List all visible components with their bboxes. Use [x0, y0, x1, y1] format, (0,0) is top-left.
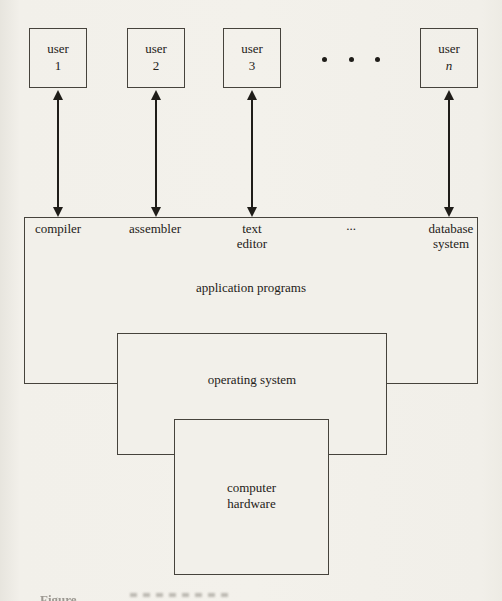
user-2-box: user 2	[127, 28, 185, 88]
program-assembler: assembler	[129, 221, 181, 236]
program-label: text	[237, 221, 267, 236]
scanned-textbook-figure: user 1 user 2 user 3 user n	[0, 0, 502, 601]
program-database-system: database system	[429, 221, 474, 252]
caption-smudge	[130, 593, 230, 597]
arrow-shaft	[251, 100, 253, 207]
user-1-number: 1	[55, 58, 62, 75]
program-label: system	[429, 236, 474, 251]
program-label: assembler	[129, 221, 181, 236]
user-n-number: n	[446, 58, 453, 75]
arrow-up-icon	[444, 90, 454, 100]
user-n-label: user	[438, 41, 460, 58]
dot-icon	[322, 57, 327, 62]
computer-hardware-label: computer hardware	[175, 480, 328, 511]
operating-system-label: operating system	[118, 372, 386, 388]
user-3-label: user	[241, 41, 263, 58]
user-1-label: user	[47, 41, 69, 58]
ellipsis-dots-icon	[322, 57, 380, 62]
user-n-connection-arrow	[443, 90, 455, 217]
dot-icon	[375, 57, 380, 62]
user-3-number: 3	[249, 58, 256, 75]
program-ellipsis: ...	[346, 218, 356, 233]
user-n-box: user n	[420, 28, 478, 88]
user-2-connection-arrow	[150, 90, 162, 217]
arrow-up-icon	[247, 90, 257, 100]
user-3-connection-arrow	[246, 90, 258, 217]
user-3-box: user 3	[223, 28, 281, 88]
computer-hardware-box: computer hardware	[174, 419, 329, 575]
arrow-shaft	[57, 100, 59, 207]
user-2-number: 2	[153, 58, 160, 75]
layer-title: operating system	[118, 372, 386, 388]
user-2-label: user	[145, 41, 167, 58]
arrow-down-icon	[53, 207, 63, 217]
program-compiler: compiler	[35, 221, 81, 236]
arrow-down-icon	[247, 207, 257, 217]
ellipsis-label: ...	[346, 218, 356, 233]
program-label: compiler	[35, 221, 81, 236]
arrow-up-icon	[53, 90, 63, 100]
arrow-up-icon	[151, 90, 161, 100]
application-programs-label: application programs	[25, 280, 477, 296]
arrow-down-icon	[151, 207, 161, 217]
program-text-editor: text editor	[237, 221, 267, 252]
layer-title: computer	[175, 480, 328, 496]
arrow-down-icon	[444, 207, 454, 217]
user-1-connection-arrow	[52, 90, 64, 217]
dot-icon	[349, 57, 354, 62]
arrow-shaft	[448, 100, 450, 207]
program-label: database	[429, 221, 474, 236]
layer-title: hardware	[175, 496, 328, 512]
user-1-box: user 1	[29, 28, 87, 88]
program-label: editor	[237, 236, 267, 251]
layer-title: application programs	[25, 280, 477, 296]
arrow-shaft	[155, 100, 157, 207]
